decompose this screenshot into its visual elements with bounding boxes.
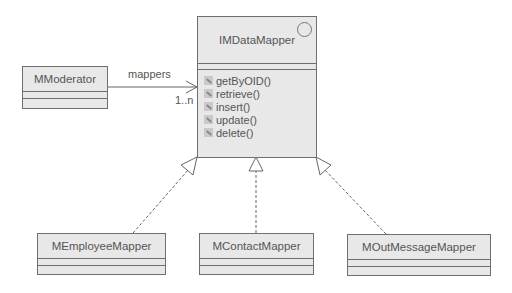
operation-update[interactable]: update() bbox=[198, 113, 316, 126]
class-memployeemapper[interactable]: MEmployeeMapper bbox=[37, 233, 166, 275]
operation-icon bbox=[204, 102, 213, 111]
realization-triangle-contact bbox=[249, 157, 263, 171]
operation-icon bbox=[204, 76, 213, 85]
realization-line-outmessage bbox=[324, 169, 386, 234]
class-name: MOutMessageMapper bbox=[348, 235, 490, 259]
class-imdatamapper[interactable]: IMDataMapper getByOID() retrieve() inser… bbox=[197, 16, 317, 158]
operation-getbyoid[interactable]: getByOID() bbox=[198, 74, 316, 87]
operation-insert[interactable]: insert() bbox=[198, 100, 316, 113]
class-mcontactmapper[interactable]: MContactMapper bbox=[199, 233, 314, 275]
interface-circle-icon bbox=[297, 22, 312, 37]
operation-delete[interactable]: delete() bbox=[198, 126, 316, 139]
operation-retrieve[interactable]: retrieve() bbox=[198, 87, 316, 100]
class-name: MContactMapper bbox=[200, 234, 313, 258]
realization-triangle-outmessage bbox=[316, 157, 331, 175]
realization-line-employee bbox=[133, 169, 189, 233]
class-name: MModerator bbox=[23, 67, 107, 91]
operation-icon bbox=[204, 89, 213, 98]
class-moutmessagemapper[interactable]: MOutMessageMapper bbox=[347, 234, 491, 276]
multiplicity-label: 1..n bbox=[175, 94, 193, 106]
association-role-label: mappers bbox=[128, 68, 171, 80]
operation-icon bbox=[204, 128, 213, 137]
class-mmoderator[interactable]: MModerator bbox=[22, 66, 108, 109]
class-name: MEmployeeMapper bbox=[38, 234, 165, 258]
realization-triangle-employee bbox=[181, 157, 197, 175]
operation-icon bbox=[204, 115, 213, 124]
